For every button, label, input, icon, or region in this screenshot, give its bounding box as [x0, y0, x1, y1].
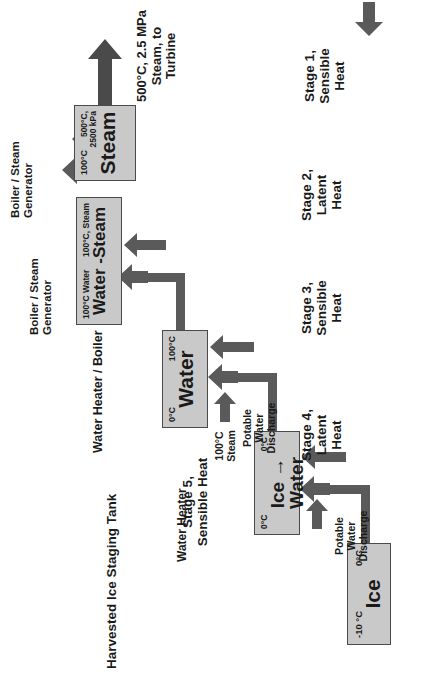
pipe-water-to-watersteam-vert — [143, 273, 181, 282]
stage-label-stage4: Stage 4, Latent Heat — [299, 392, 344, 478]
arrow-stage4-heat — [124, 233, 166, 257]
stage-label-stage3: Stage 3, Sensible Heat — [299, 265, 344, 351]
node-water-steam-phase: Water -Steam — [91, 198, 108, 324]
arrow-discharge-1 — [306, 499, 328, 529]
node-water-phase: Water — [175, 331, 196, 427]
node-header-steam: Boiler / Steam Generator — [9, 98, 35, 218]
node-water-steam: 100°C Water 100°C, Steam Water -Steam — [76, 197, 122, 325]
node-header-water-steam: Boiler / Steam Generator — [28, 215, 54, 335]
discharge-label-1: Potable Water Discharge — [334, 499, 369, 573]
stage-label-stage2: Stage 2, Latent Heat — [299, 152, 344, 238]
arrow-steam-output — [88, 39, 122, 105]
node-water: 0°C 100°C Water — [162, 330, 208, 428]
arrow-stage3-heat — [210, 335, 254, 359]
node-steam-phase: Steam — [97, 106, 118, 180]
arrow-water-to-watersteam — [118, 264, 148, 290]
pipe-ice-to-icewater-vert — [325, 485, 365, 494]
arrow-icewater-to-water — [208, 364, 238, 390]
arrow-ice-feed — [352, 2, 386, 36]
stage-label-stage5: Stage 5, Sensible Heat — [180, 452, 210, 552]
pipe-icewater-to-water-vert — [233, 373, 273, 382]
process-flow-diagram: Harvested Ice Staging Tank -10 °C 0°C Ic… — [0, 0, 435, 681]
node-steam-temp-in: 100°C — [80, 150, 89, 175]
node-steam: 100°C 500°C, 2500 kPa Steam — [74, 105, 136, 181]
output-label: 500°C, 2.5 MPa Steam, to Turbine — [135, 4, 179, 108]
stream-label-steam-100: 100°C Steam — [214, 411, 238, 481]
stage-label-stage1: Stage 1, Sensible Heat — [302, 31, 347, 121]
node-header-ice: Harvested Ice Staging Tank — [104, 489, 119, 669]
discharge-label-2: Potable Water Discharge — [242, 391, 277, 465]
